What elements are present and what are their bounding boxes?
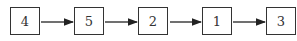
node-3: 3 [266, 7, 296, 35]
node-1: 1 [202, 7, 232, 35]
node-label: 2 [149, 14, 157, 29]
node-label: 3 [277, 14, 285, 29]
node-label: 5 [85, 14, 93, 29]
node-2: 2 [138, 7, 168, 35]
node-label: 1 [213, 14, 221, 29]
node-4: 4 [10, 7, 40, 35]
node-5: 5 [74, 7, 104, 35]
node-label: 4 [21, 14, 29, 29]
